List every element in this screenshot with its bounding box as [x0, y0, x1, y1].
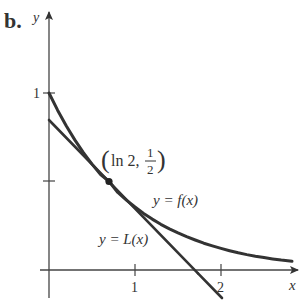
diagram-canvas: b. y x 1 1 2 ( ln 2, 1 2 ) y = f(x) y = …: [0, 0, 304, 307]
point-label-x: ln 2,: [111, 152, 139, 169]
x-axis-label: x: [288, 277, 296, 293]
point-label-open-paren: (: [101, 145, 110, 174]
curve-L-label: y = L(x): [97, 231, 148, 248]
point-label-numerator: 1: [147, 145, 154, 160]
tangency-point: [105, 178, 112, 185]
x-tick-label-1: 1: [131, 280, 138, 295]
y-tick-label-1: 1: [33, 86, 40, 101]
y-axis-label: y: [31, 10, 40, 25]
point-label: ( ln 2, 1 2 ): [101, 145, 166, 177]
curve-f-label: y = f(x): [151, 192, 198, 209]
point-label-denominator: 2: [147, 162, 154, 177]
curve-f: [49, 93, 292, 261]
point-label-close-paren: ): [157, 145, 166, 174]
panel-label: b.: [4, 8, 22, 33]
